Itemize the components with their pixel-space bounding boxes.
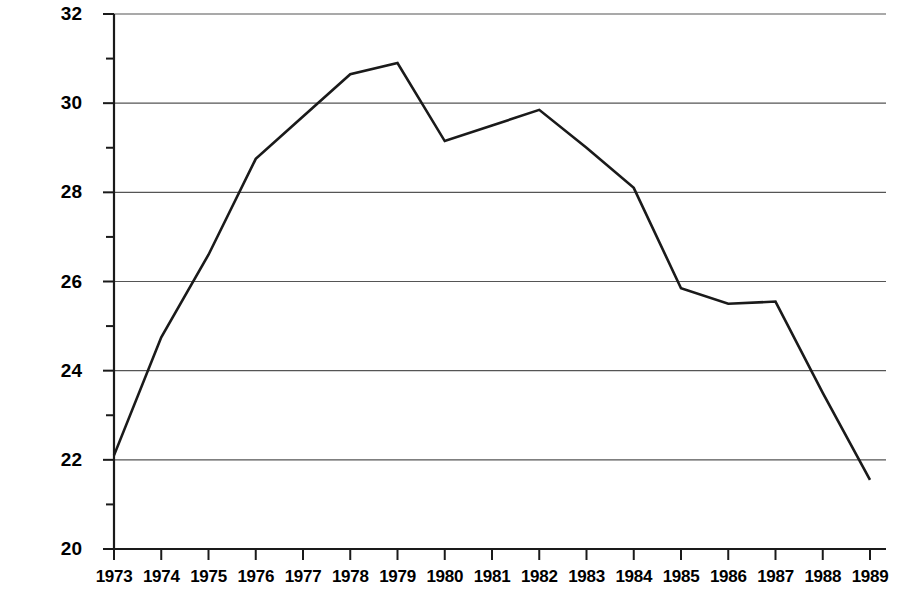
y-tick-label-24: 24 [30,361,82,380]
y-major-ticks-group [103,14,114,549]
data-series-line [114,63,870,480]
gridlines-group [114,14,886,460]
y-tick-label-28: 28 [30,182,82,201]
y-tick-label-32: 32 [30,4,82,23]
x-tick-label-1989: 1989 [840,568,898,585]
line-chart-figure: Number of prescriptions (millions) 32302… [0,0,898,600]
y-tick-label-30: 30 [30,93,82,112]
plot-area [0,0,898,600]
y-tick-label-26: 26 [30,272,82,291]
y-tick-label-20: 20 [30,539,82,558]
y-tick-label-22: 22 [30,450,82,469]
x-ticks-group [114,549,870,560]
